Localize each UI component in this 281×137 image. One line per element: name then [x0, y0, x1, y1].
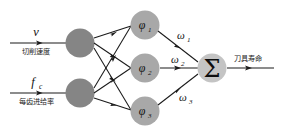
hidden-label-phi1-subscript: 1	[148, 26, 152, 34]
edge-in2-h2	[94, 68, 131, 93]
weight-label-omega2: ω	[171, 53, 179, 65]
hidden-label-phi2-subscript: 2	[148, 69, 152, 77]
weight-label-omega2-subscript: 2	[181, 60, 185, 68]
weight-label-omega3: ω	[179, 91, 187, 103]
hidden-label-phi3-subscript: 3	[147, 112, 152, 120]
input-line-group-1	[10, 40, 66, 45]
input-caption-cutting-speed: 切削速度	[22, 47, 50, 56]
input-symbol-2-subscript: c	[39, 82, 43, 91]
weight-label-omega1: ω	[177, 29, 185, 41]
hidden-label-phi1: φ	[139, 18, 146, 32]
sum-symbol: Σ	[204, 55, 221, 83]
weight-label-omega3-subscript: 3	[188, 98, 193, 106]
input-symbol-1: v	[33, 25, 39, 39]
weight-label-omega1-subscript: 1	[187, 36, 191, 44]
output-line-group	[227, 65, 274, 70]
hidden-label-phi2: φ	[139, 61, 146, 75]
hidden-label-phi3: φ	[139, 104, 146, 118]
input-caption-feed-per-tooth: 每齿进给率	[19, 97, 54, 106]
input-line-group-2	[10, 90, 66, 95]
input-node-cutting-speed	[66, 29, 95, 58]
input-symbol-2: f	[31, 75, 36, 89]
output-caption-tool-life: 刀具寿命	[234, 54, 262, 63]
neural-network-diagram: v 切削速度 f c 每齿进给率 φ 1 φ 2 φ 3 ω 1 ω 2 ω 3…	[0, 0, 281, 137]
input-node-feed-per-tooth	[66, 79, 95, 108]
network-canvas: v 切削速度 f c 每齿进给率 φ 1 φ 2 φ 3 ω 1 ω 2 ω 3…	[0, 0, 281, 137]
edges-input-to-hidden	[94, 26, 131, 110]
edge-arrow-in2-h3	[110, 103, 117, 106]
edges-hidden-to-sum	[158, 31, 198, 105]
